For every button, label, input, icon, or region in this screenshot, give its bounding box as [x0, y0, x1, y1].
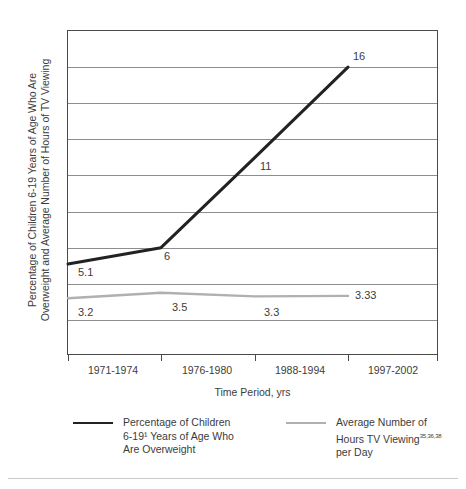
x-tick-label-3: 1988-1994: [275, 364, 325, 376]
chart-legend: Percentage of Children 6-19¹ Years of Ag…: [67, 416, 457, 466]
series-line-overweight: [68, 67, 348, 264]
legend-swatch-overweight: [73, 422, 113, 424]
x-tick-label-1: 1971-1974: [88, 364, 138, 376]
legend-label-tv-viewing: Average Number of Hours TV Viewing35,36,…: [336, 416, 441, 459]
legend-label-tv-viewing-tail: per Day: [336, 446, 373, 458]
legend-label-tv-viewing-superscript: 35,36,38: [420, 433, 442, 439]
bottom-divider: [8, 478, 458, 479]
data-label-overweight-2: 6: [164, 250, 170, 262]
legend-label-overweight: Percentage of Children 6-19¹ Years of Ag…: [123, 416, 234, 457]
chart-figure: Percentage of Children 6-19 Years of Age…: [0, 0, 466, 489]
series-line-tv-viewing: [68, 293, 348, 298]
data-label-tv-3: 3.3: [264, 306, 279, 318]
legend-item-tv-viewing: Average Number of Hours TV Viewing35,36,…: [286, 416, 441, 459]
data-label-tv-4: 3.33: [355, 289, 376, 301]
data-label-tv-1: 3.2: [78, 306, 93, 318]
data-label-overweight-3: 11: [260, 160, 271, 172]
plot-area: 5.1 6 11 16 3.2 3.5 3.3 3.33: [67, 30, 438, 355]
x-tick-label-2: 1976-1980: [182, 364, 232, 376]
series-lines: [68, 31, 439, 356]
legend-item-overweight: Percentage of Children 6-19¹ Years of Ag…: [73, 416, 234, 457]
y-axis-title: Percentage of Children 6-19 Years of Age…: [0, 22, 56, 358]
data-label-overweight-4: 16: [353, 50, 365, 62]
x-tick-label-4: 1997-2002: [368, 364, 418, 376]
data-label-overweight-1: 5.1: [78, 266, 93, 278]
data-label-tv-2: 3.5: [172, 301, 187, 313]
legend-swatch-tv-viewing: [286, 422, 326, 424]
legend-label-tv-viewing-main: Average Number of Hours TV Viewing: [336, 416, 427, 444]
x-axis-title: Time Period, yrs: [67, 386, 438, 398]
